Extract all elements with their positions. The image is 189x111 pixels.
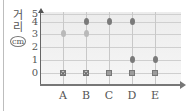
x-tick-a: A bbox=[56, 90, 70, 101]
square-marker-e-0 bbox=[152, 70, 158, 76]
point-b-3 bbox=[84, 30, 89, 37]
frame-border bbox=[3, 0, 4, 111]
point-e-1 bbox=[153, 56, 158, 63]
y-tick-1: 1 bbox=[28, 55, 38, 65]
x-tick-e: E bbox=[148, 90, 162, 101]
gridline-2 bbox=[41, 47, 181, 48]
x-axis-arrow-icon bbox=[180, 81, 186, 89]
point-b-4 bbox=[84, 18, 89, 25]
y-axis-label: 거 리 cm bbox=[10, 10, 26, 47]
y-axis-arrow-icon bbox=[38, 8, 44, 13]
x-axis bbox=[40, 84, 183, 86]
square-marker-c-0 bbox=[106, 70, 112, 76]
y-tick-2: 2 bbox=[28, 42, 38, 52]
y-axis-label-char-2: 리 bbox=[10, 22, 26, 34]
y-tick-4: 4 bbox=[28, 17, 38, 27]
point-a-3 bbox=[61, 30, 66, 37]
x-tick-d: D bbox=[125, 90, 139, 101]
y-tick-0: 0 bbox=[28, 68, 38, 78]
x-tick-c: C bbox=[102, 90, 116, 101]
square-marker-d-0 bbox=[129, 70, 135, 76]
cross-marker-a-0 bbox=[60, 70, 66, 76]
gridline-5 bbox=[41, 14, 181, 15]
point-c-4 bbox=[107, 18, 112, 25]
point-d-1 bbox=[130, 56, 135, 63]
y-tick-3: 3 bbox=[28, 29, 38, 39]
x-tick-b: B bbox=[79, 90, 93, 101]
y-axis bbox=[40, 10, 41, 85]
y-axis-unit: cm bbox=[10, 36, 26, 47]
point-d-4 bbox=[130, 18, 135, 25]
cross-marker-b-0 bbox=[83, 70, 89, 76]
gridline-1 bbox=[41, 60, 181, 61]
